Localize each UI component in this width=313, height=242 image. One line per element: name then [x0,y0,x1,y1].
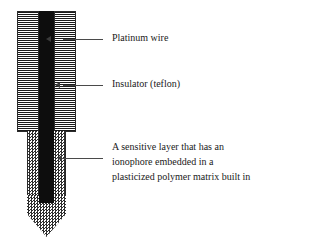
label-sensitive-layer-line-2: ionophore embedded in a [112,154,308,169]
sensitive-layer-right [54,131,66,203]
leader-line-insulator [63,85,103,86]
sensitive-layer-left [27,131,39,203]
insulator-sleeve-right [54,11,76,132]
arrowhead-platinum-wire-icon [46,36,51,42]
leader-line-platinum-wire [63,39,103,40]
label-insulator: Insulator (teflon) [112,77,180,90]
label-sensitive-layer-line-3: plasticized polymer matrix built in [112,169,308,184]
leader-line-sensitive-layer [60,158,103,159]
label-sensitive-layer-line-1: A sensitive layer that has an [112,139,308,154]
label-platinum-wire: Platinum wire [112,31,168,44]
insulator-sleeve-left [17,11,39,132]
arrowhead-sensitive-layer-icon [57,155,62,161]
arrowhead-insulator-icon [55,82,60,88]
label-sensitive-layer: A sensitive layer that has an ionophore … [112,139,308,184]
diagram-page: Platinum wire Insulator (teflon) A sensi… [0,0,313,242]
